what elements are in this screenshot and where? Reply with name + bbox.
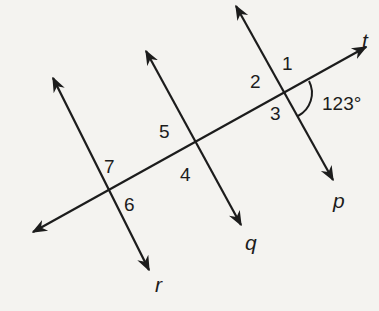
angle-label-3: 3 (270, 104, 281, 123)
given-angle-measure: 123° (322, 94, 361, 113)
angle-label-4: 4 (180, 165, 191, 184)
angle-label-5: 5 (159, 122, 170, 141)
angle-label-2: 2 (250, 72, 261, 91)
angle-label-6: 6 (124, 195, 135, 214)
line-p (236, 6, 333, 180)
label-line-t: t (362, 30, 368, 51)
label-line-p: p (333, 190, 345, 211)
label-line-r: r (155, 274, 162, 295)
angle-label-7: 7 (104, 157, 115, 176)
angle-label-1: 1 (282, 54, 293, 73)
label-line-q: q (245, 232, 257, 253)
line-r (53, 78, 149, 270)
parallel-lines-diagram (0, 0, 379, 311)
angle-arc-123 (298, 81, 312, 116)
